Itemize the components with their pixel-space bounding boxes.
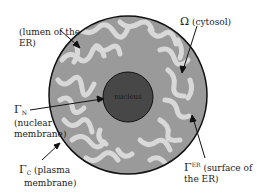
label-er-surface-line2: the ER)	[184, 174, 252, 185]
label-plasma-membrane: ΓC (plasma membrane)	[19, 164, 76, 189]
label-plasma-text: (plasma	[31, 165, 70, 175]
label-cytosol: Ω (cytosol)	[180, 16, 231, 28]
label-er-surface: ΓER (surface of the ER)	[184, 159, 252, 185]
omega-symbol: Ω	[180, 15, 189, 28]
label-er-surface-text: (surface of	[201, 163, 253, 173]
label-nuclear-membrane: ΓN (nuclear membrane)	[14, 104, 66, 140]
label-nuclear-line2: (nuclear	[14, 118, 66, 129]
gamma-n-subscript: N	[22, 109, 27, 116]
label-nuclear-line3: membrane)	[14, 129, 66, 140]
label-lumen: (lumen of the ER)	[19, 27, 80, 49]
gamma-er-superscript: ER	[192, 161, 201, 168]
nucleus-label: nucleus	[114, 93, 142, 101]
label-lumen-line1: (lumen of the	[19, 27, 80, 38]
gamma-er-symbol: Γ	[184, 161, 192, 174]
label-plasma-line2: membrane)	[19, 178, 76, 189]
gamma-n-symbol: Γ	[14, 103, 22, 116]
label-cytosol-text: (cytosol)	[189, 17, 231, 27]
gamma-c-symbol: Γ	[19, 163, 27, 176]
label-lumen-line2: ER)	[19, 38, 80, 49]
